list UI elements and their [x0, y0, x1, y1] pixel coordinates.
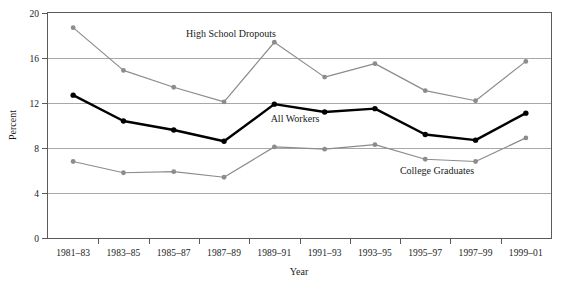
y-axis-title: Percent — [7, 110, 18, 140]
y-tick-label-12: 12 — [30, 99, 40, 109]
x-tick-label-1983–85: 1983–85 — [106, 248, 140, 258]
data-point — [373, 61, 378, 66]
data-point — [272, 101, 277, 106]
data-point — [322, 75, 327, 80]
data-point — [372, 106, 377, 111]
x-tick-label-1991–93: 1991–93 — [308, 248, 342, 258]
series-annotations: High School DropoutsAll WorkersCollege G… — [186, 28, 474, 176]
x-tick-label-1981–83: 1981–83 — [56, 248, 90, 258]
data-point — [121, 68, 126, 73]
y-tick-label-0: 0 — [34, 234, 39, 244]
data-point — [272, 144, 277, 149]
line-chart: 20 16 12 8 4 0 Percent 1981–831983–85198… — [0, 0, 565, 288]
data-point — [272, 40, 277, 45]
y-tick-label-8: 8 — [34, 144, 39, 154]
y-tick-label-20: 20 — [30, 9, 40, 19]
data-point — [473, 159, 478, 164]
data-point — [71, 159, 76, 164]
data-point — [473, 98, 478, 103]
data-point — [523, 135, 528, 140]
series-label-high-school-dropouts: High School Dropouts — [186, 28, 276, 39]
series-high-school-dropouts — [71, 25, 528, 104]
series-line — [73, 28, 526, 102]
data-point — [70, 92, 75, 97]
x-tick-label-1987–89: 1987–89 — [207, 248, 241, 258]
data-point — [523, 59, 528, 64]
data-point — [423, 88, 428, 93]
series-label-college-graduates: College Graduates — [400, 165, 474, 176]
data-point — [71, 25, 76, 30]
data-point — [121, 118, 126, 123]
chart-canvas: 20 16 12 8 4 0 Percent 1981–831983–85198… — [0, 0, 565, 288]
data-point — [222, 175, 227, 180]
data-point — [222, 99, 227, 104]
data-point — [473, 137, 478, 142]
data-point — [322, 147, 327, 152]
y-tick-label-16: 16 — [30, 54, 40, 64]
data-point — [171, 127, 176, 132]
x-tick-label-1993–95: 1993–95 — [358, 248, 392, 258]
x-tick-label-1995–97: 1995–97 — [408, 248, 442, 258]
x-axis-title: Year — [290, 266, 309, 277]
x-tick-labels: 1981–831983–851985–871987–891989–911991–… — [56, 248, 543, 258]
data-point — [423, 157, 428, 162]
plot-frame — [48, 13, 552, 239]
data-point — [221, 139, 226, 144]
y-tick-label-4: 4 — [34, 189, 39, 199]
data-point — [373, 142, 378, 147]
series-label-all-workers: All Workers — [271, 113, 320, 124]
x-tick-label-1985–87: 1985–87 — [157, 248, 191, 258]
data-point — [423, 132, 428, 137]
data-point — [322, 109, 327, 114]
y-tick-labels: 20 16 12 8 4 0 — [30, 9, 40, 244]
x-tick-label-1997–99: 1997–99 — [459, 248, 493, 258]
x-tick-label-1999–01: 1999–01 — [509, 248, 543, 258]
data-point — [171, 85, 176, 90]
data-point — [171, 169, 176, 174]
data-point — [523, 110, 528, 115]
x-tick-label-1989–91: 1989–91 — [257, 248, 291, 258]
series-layer — [70, 25, 528, 179]
data-point — [121, 170, 126, 175]
